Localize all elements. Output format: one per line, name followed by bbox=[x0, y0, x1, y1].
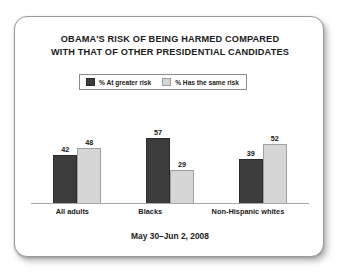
bar-value-all-adults-greater: 42 bbox=[53, 145, 77, 154]
bar-group-non-hispanic-whites: 39 52 bbox=[239, 112, 287, 204]
category-label-non-hispanic-whites: Non-Hispanic whites bbox=[212, 207, 285, 216]
bar-group-all-adults: 42 48 bbox=[53, 112, 101, 204]
legend-item-at-greater-risk: % At greater risk bbox=[86, 78, 151, 86]
bar-wrap-all-adults-same: 48 bbox=[77, 112, 101, 204]
bar-value-all-adults-same: 48 bbox=[77, 138, 101, 147]
bar-group-blacks: 57 29 bbox=[146, 112, 194, 204]
x-axis-line bbox=[31, 203, 309, 204]
legend-swatch-icon-at-greater-risk bbox=[86, 78, 95, 86]
category-labels: All adults Blacks Non-Hispanic whites bbox=[31, 207, 309, 216]
bar-blacks-greater bbox=[146, 138, 170, 204]
legend-label-same-risk: % Has the same risk bbox=[175, 79, 239, 86]
chart-plot-area: 42 48 57 29 bbox=[31, 112, 309, 204]
legend-label-at-greater-risk: % At greater risk bbox=[99, 79, 151, 86]
chart-title: OBAMA'S RISK OF BEING HARMED COMPARED WI… bbox=[25, 33, 315, 58]
bar-wrap-nhw-same: 52 bbox=[263, 112, 287, 204]
bar-value-blacks-greater: 57 bbox=[146, 128, 170, 137]
category-label-blacks: Blacks bbox=[138, 207, 162, 216]
bar-blacks-same bbox=[170, 170, 194, 204]
legend-item-same-risk: % Has the same risk bbox=[162, 78, 239, 86]
category-label-all-adults: All adults bbox=[56, 207, 89, 216]
bar-wrap-nhw-greater: 39 bbox=[239, 112, 263, 204]
bar-groups: 42 48 57 29 bbox=[31, 112, 309, 204]
legend-swatch-icon-same-risk bbox=[162, 78, 171, 86]
screenshot-stage: OBAMA'S RISK OF BEING HARMED COMPARED WI… bbox=[0, 0, 340, 278]
chart-legend: % At greater risk % Has the same risk bbox=[79, 74, 247, 90]
bar-value-nhw-greater: 39 bbox=[239, 149, 263, 158]
bar-value-blacks-same: 29 bbox=[170, 160, 194, 169]
bar-wrap-blacks-greater: 57 bbox=[146, 112, 170, 204]
bar-wrap-all-adults-greater: 42 bbox=[53, 112, 77, 204]
bar-nhw-same bbox=[263, 144, 287, 204]
bar-value-nhw-same: 52 bbox=[263, 134, 287, 143]
chart-card: OBAMA'S RISK OF BEING HARMED COMPARED WI… bbox=[14, 16, 324, 257]
bar-all-adults-greater bbox=[53, 155, 77, 204]
chart-footer-date: May 30–Jun 2, 2008 bbox=[25, 231, 315, 241]
bar-nhw-greater bbox=[239, 159, 263, 204]
chart-title-line-1: OBAMA'S RISK OF BEING HARMED COMPARED bbox=[25, 33, 315, 46]
bar-all-adults-same bbox=[77, 148, 101, 204]
chart-title-line-2: WITH THAT OF OTHER PRESIDENTIAL CANDIDAT… bbox=[25, 46, 315, 59]
chart-card-inner: OBAMA'S RISK OF BEING HARMED COMPARED WI… bbox=[15, 17, 323, 256]
bar-wrap-blacks-same: 29 bbox=[170, 112, 194, 204]
